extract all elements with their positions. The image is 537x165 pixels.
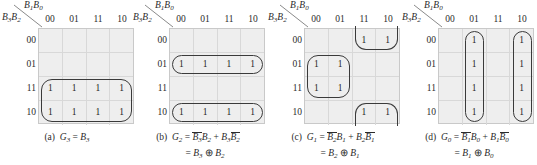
row-header-11: 11 <box>280 76 302 100</box>
kmap-cell-r0-c2 <box>218 29 242 52</box>
kmap-row: 11 <box>439 29 533 53</box>
kmap-row <box>170 29 264 53</box>
kmap-cell-r3-c2 <box>487 101 511 125</box>
row-header-01: 01 <box>145 52 167 76</box>
kmap-cell-r2-c3 <box>376 77 399 100</box>
row-variables-label: B3B2 <box>402 13 421 24</box>
kmap-cell-r3-c0 <box>305 101 329 125</box>
kmap-cell-r1-c3: 1 <box>241 53 264 76</box>
row-header-10: 10 <box>280 100 302 124</box>
column-header-row: 00011110 <box>169 13 265 26</box>
kmap-d: B1B0B3B2000111100001111011111111(d) G0 =… <box>400 0 534 165</box>
kmap-cell-r2-c1: 1 <box>463 77 487 100</box>
kmap-row: 11 <box>439 77 533 101</box>
row-header-column: 00011110 <box>280 28 302 124</box>
kmap-row <box>170 77 264 101</box>
kmap-row: 1111 <box>39 101 133 125</box>
kmap-cell-r3-c1: 1 <box>63 101 87 125</box>
kmap-c: B1B0B3B2000111100001111011111111(c) G1 =… <box>266 0 400 165</box>
xor-operator-icon: ⊕ <box>205 148 213 158</box>
kmap-cell-r0-c1 <box>63 29 87 52</box>
column-variables-label: B1B0 <box>155 1 174 12</box>
column-header-01: 01 <box>62 13 86 26</box>
kmap-cell-r1-c1 <box>63 53 87 76</box>
caption-equation-1: (b) G2 = B3B2 + B3B2 <box>156 132 240 142</box>
kmap-cell-r2-c2 <box>218 77 242 100</box>
kmap-cell-r2-c0 <box>439 77 463 100</box>
kmap-caption-c: (c) G1 = B2B1 + B2B1= B2 ⊕ B1 <box>266 131 400 162</box>
column-header-11: 11 <box>352 13 376 26</box>
column-header-01: 01 <box>328 13 352 26</box>
xor-operator-icon: ⊕ <box>474 148 482 158</box>
kmap-row <box>39 53 133 77</box>
xor-left: B2 <box>328 148 337 158</box>
kmap-cell-r1-c0: 1 <box>305 53 329 76</box>
kmap-row: 11 <box>439 101 533 125</box>
xor-operator-icon: ⊕ <box>340 148 348 158</box>
kmap-cell-r2-c1: 1 <box>63 77 87 100</box>
kmap-row: 11 <box>305 29 399 53</box>
kmap-cell-r3-c3: 1 <box>110 101 133 125</box>
kmap-row: 11 <box>305 53 399 77</box>
column-header-00: 00 <box>169 13 193 26</box>
kmap-caption-b: (b) G2 = B3B2 + B3B2= B3 ⊕ B2 <box>131 131 265 162</box>
kmap-cell-r3-c2: 1 <box>353 101 377 125</box>
row-variables-label: B3B2 <box>2 13 21 24</box>
literal-0-0-overbar: B1 <box>461 132 470 144</box>
literal-1-1-overbar: B1 <box>365 132 374 144</box>
row-header-10: 10 <box>414 100 436 124</box>
kmap-cell-r0-c1 <box>329 29 353 52</box>
kmap-cell-r1-c2 <box>87 53 111 76</box>
xor-left: B3 <box>193 148 202 158</box>
kmap-cell-r0-c1: 1 <box>463 29 487 52</box>
literal-1-1-overbar: B2 <box>231 132 240 144</box>
kmap-cell-r1-c1: 1 <box>463 53 487 76</box>
row-variables-label: B3B2 <box>133 13 152 24</box>
column-header-10: 10 <box>241 13 265 26</box>
caption-equation-2: = B3 ⊕ B2 <box>131 147 265 163</box>
kmap-cell-r2-c1: 1 <box>329 77 353 100</box>
row-header-column: 00011110 <box>14 28 36 124</box>
kmap-grid: 11111111 <box>38 28 134 124</box>
kmap-row: 1111 <box>39 77 133 101</box>
literal-0-0-overbar: B3 <box>192 132 201 144</box>
column-header-00: 00 <box>38 13 62 26</box>
column-variables-label: B1B0 <box>290 1 309 12</box>
kmap-cell-r1-c0 <box>39 53 63 76</box>
column-header-01: 01 <box>462 13 486 26</box>
literal-0-1: B2 <box>202 132 211 142</box>
kmap-cell-r2-c2 <box>353 77 377 100</box>
kmap-cell-r0-c2: 1 <box>353 29 377 52</box>
kmap-cell-r1-c1: 1 <box>194 53 218 76</box>
row-variables-label: B3B2 <box>268 13 287 24</box>
kmap-cell-r2-c3 <box>241 77 264 100</box>
kmap-cell-r3-c0 <box>439 101 463 125</box>
kmap-cell-r0-c3 <box>110 29 133 52</box>
column-header-01: 01 <box>193 13 217 26</box>
row-header-01: 01 <box>414 52 436 76</box>
caption-output: G2 <box>172 132 182 142</box>
column-variables-label: B1B0 <box>424 1 443 12</box>
kmap-cell-r3-c1 <box>329 101 353 125</box>
row-header-11: 11 <box>14 76 36 100</box>
kmap-grid: 11111111 <box>169 28 265 124</box>
row-header-00: 00 <box>414 28 436 52</box>
caption-output: G0 <box>441 132 451 142</box>
kmap-cell-r1-c1: 1 <box>329 53 353 76</box>
caption-equation-1: (c) G1 = B2B1 + B2B1 <box>291 132 374 142</box>
caption-output: G3 <box>60 132 70 142</box>
kmap-cell-r3-c3: 1 <box>510 101 533 125</box>
xor-right: B2 <box>215 148 224 158</box>
caption-label: (a) <box>44 132 55 142</box>
kmap-cell-r1-c0 <box>439 53 463 76</box>
kmap-cell-r0-c0 <box>305 29 329 52</box>
literal-0-1: B0 <box>471 132 480 142</box>
kmap-grid: 11111111 <box>304 28 400 124</box>
literal-1-1-overbar: B0 <box>500 132 509 144</box>
caption-label: (d) <box>425 132 436 142</box>
kmap-cell-r0-c0 <box>439 29 463 52</box>
row-header-00: 00 <box>145 28 167 52</box>
kmap-cell-r2-c2: 1 <box>87 77 111 100</box>
kmap-cell-r1-c3 <box>110 53 133 76</box>
kmap-row: 11 <box>305 101 399 125</box>
